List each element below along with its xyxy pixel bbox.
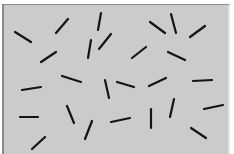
line-segment xyxy=(191,128,206,138)
line-segment xyxy=(170,99,174,117)
line-segment xyxy=(88,40,91,58)
line-segment xyxy=(62,76,81,82)
line-segment xyxy=(171,14,176,33)
line-segment xyxy=(41,52,56,62)
line-segment xyxy=(99,34,111,49)
line-segment xyxy=(117,82,134,87)
line-segment xyxy=(56,19,68,33)
line-segment xyxy=(67,106,74,123)
line-segment xyxy=(149,78,166,86)
line-segment xyxy=(111,118,130,122)
line-segment xyxy=(15,32,31,42)
line-segment xyxy=(190,26,205,37)
line-segment xyxy=(204,105,223,109)
line-segment xyxy=(85,121,92,139)
stimulus-frame xyxy=(0,0,234,154)
line-segment xyxy=(193,80,212,81)
line-segment xyxy=(168,52,185,60)
line-segment xyxy=(150,22,165,33)
line-segment xyxy=(98,13,101,30)
line-segment xyxy=(22,87,41,90)
line-segment xyxy=(132,47,146,58)
line-segment xyxy=(105,80,109,98)
line-segments xyxy=(0,0,234,154)
line-segment xyxy=(32,137,45,149)
